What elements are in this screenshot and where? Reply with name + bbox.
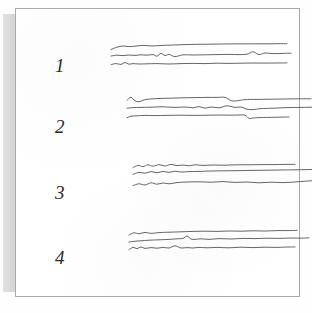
- trace-group-label: 3: [55, 183, 65, 202]
- figure-area: 1234: [15, 8, 300, 297]
- trace-line: [133, 181, 312, 186]
- trace-plot: [127, 94, 307, 136]
- trace-line: [111, 44, 287, 50]
- bottom-caption: [52, 303, 302, 313]
- trace-line: [129, 246, 295, 250]
- trace-line: [129, 236, 309, 242]
- trace-plot: [133, 160, 312, 204]
- scanned-figure-page: 1234: [0, 0, 312, 313]
- trace-plot: [111, 40, 291, 80]
- trace-line: [111, 63, 287, 65]
- trace-line: [133, 164, 295, 167]
- trace-line: [127, 115, 289, 119]
- trace-line: [127, 106, 312, 110]
- trace-line: [133, 169, 312, 174]
- trace-line: [127, 97, 311, 102]
- trace-group-label: 4: [55, 248, 65, 267]
- trace-line: [111, 52, 291, 57]
- trace-group-label: 1: [55, 56, 65, 75]
- trace-line: [129, 230, 297, 235]
- trace-plot: [129, 226, 309, 270]
- trace-group-label: 2: [55, 117, 65, 136]
